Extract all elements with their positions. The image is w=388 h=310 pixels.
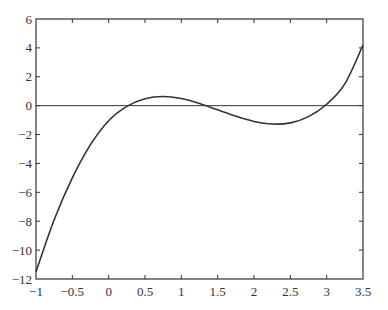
- y-tick-label: −4: [18, 156, 32, 171]
- y-tick-label: −8: [18, 214, 32, 229]
- series-line: [36, 45, 363, 272]
- y-tick-label: −6: [18, 185, 32, 200]
- y-tick-label: −12: [12, 272, 32, 287]
- y-tick-label: −10: [12, 243, 32, 258]
- y-tick-label: 6: [26, 12, 33, 27]
- y-tick-label: −2: [18, 127, 32, 142]
- plot-area: [36, 19, 363, 279]
- x-tick-label: −0.5: [61, 284, 85, 299]
- x-tick-label: 2: [251, 284, 258, 299]
- x-tick-label: 3.5: [355, 284, 371, 299]
- x-tick-label: 0.5: [137, 284, 153, 299]
- y-tick-label: 2: [26, 69, 33, 84]
- y-axis: −12−10−8−6−4−20246: [12, 12, 363, 287]
- plot-frame: [36, 19, 363, 279]
- chart: −1−0.500.511.522.533.5 −12−10−8−6−4−2024…: [0, 0, 388, 310]
- x-tick-label: 1.5: [210, 284, 226, 299]
- x-axis: −1−0.500.511.522.533.5: [29, 19, 371, 299]
- x-tick-label: 2.5: [282, 284, 298, 299]
- x-tick-label: 0: [105, 284, 112, 299]
- y-tick-label: 4: [26, 40, 33, 55]
- x-tick-label: 3: [323, 284, 330, 299]
- y-tick-label: 0: [26, 98, 33, 113]
- x-tick-label: 1: [178, 284, 185, 299]
